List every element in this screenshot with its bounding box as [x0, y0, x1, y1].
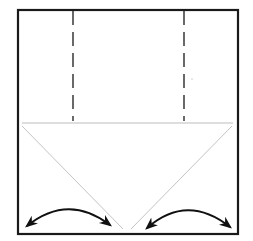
stray-dot [191, 78, 192, 79]
fold-diagram [0, 0, 253, 241]
paper-square [18, 10, 238, 234]
